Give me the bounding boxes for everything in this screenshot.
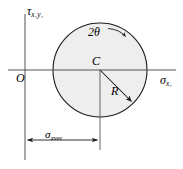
sigma-aver-label: σaver [45,129,62,140]
angle-label: 2θ [88,26,100,38]
origin-label: O [16,72,25,84]
radius-label: R [111,85,118,97]
mohrs-circle-diagram: τx₁y₁ σx₁ O 2θ C R σaver [0,0,183,169]
sigma-subscript: x₁ [166,79,172,88]
circle-center-label: C [92,55,100,67]
vertical-axis-label: τx₁y₁ [27,5,43,17]
sigma-aver-subscript: aver [50,134,62,141]
horizontal-axis-label: σx₁ [160,74,172,86]
tau-subscript: x₁y₁ [31,10,43,19]
